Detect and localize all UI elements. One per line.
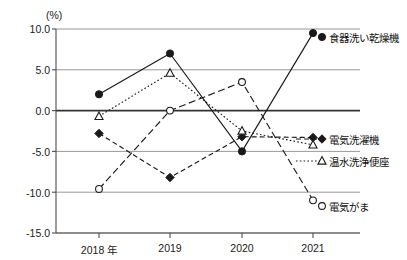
data-point (96, 186, 103, 193)
data-point (166, 50, 173, 57)
legend-marker-1 (318, 135, 326, 143)
series-2 (95, 69, 317, 148)
legend-marker-2 (318, 157, 326, 165)
series-line-1 (99, 133, 313, 177)
data-point (95, 129, 103, 137)
data-point (238, 127, 246, 135)
data-point (238, 148, 245, 155)
data-point (239, 79, 246, 86)
data-point (309, 140, 317, 148)
legend-marker-3 (319, 203, 326, 210)
data-point (95, 91, 102, 98)
series-line-2 (99, 73, 313, 145)
legend-marker-0 (318, 33, 325, 40)
series-1 (95, 129, 317, 181)
series-line-3 (99, 82, 313, 200)
plot-area (0, 0, 407, 260)
series-line-0 (99, 33, 313, 151)
series-0 (95, 29, 316, 155)
data-point (310, 197, 317, 204)
line-chart: (%) 10.0 5.0 0.0 -5.0 -10.0 -15.0 2018 年… (0, 0, 407, 260)
data-point (166, 173, 174, 181)
data-point (167, 107, 174, 114)
series-3 (96, 79, 317, 204)
data-point (95, 112, 103, 120)
data-point (309, 29, 316, 36)
